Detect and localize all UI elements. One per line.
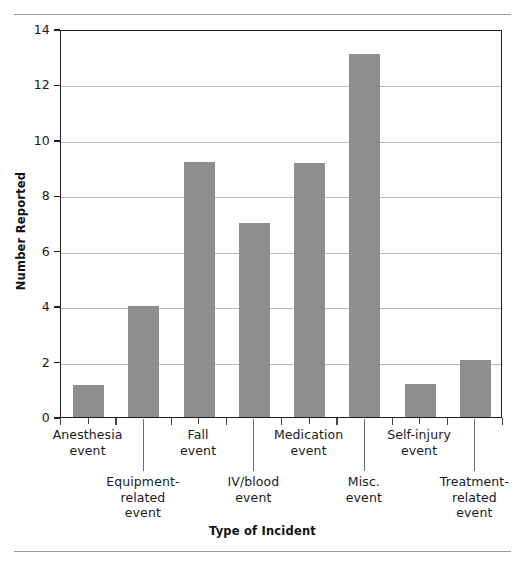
x-axis-label-self-injury-event: Self-injury event bbox=[364, 427, 474, 458]
bar-treatment-related-event bbox=[460, 360, 491, 417]
x-axis-label-iv-blood-event: IV/blood event bbox=[198, 474, 308, 505]
x-tick-boundary-1 bbox=[115, 418, 116, 425]
plot-area bbox=[60, 30, 502, 418]
x-axis-title: Type of Incident bbox=[0, 524, 525, 538]
x-axis-label-anesthesia-event: Anesthesia event bbox=[33, 427, 143, 458]
x-tick-leader-7 bbox=[474, 419, 475, 471]
x-tick-boundary-end bbox=[502, 418, 503, 425]
x-axis-label-equipment-related-event: Equipment- related event bbox=[88, 474, 198, 521]
bar-anesthesia-event bbox=[73, 385, 104, 417]
x-tick-boundary-4 bbox=[281, 418, 282, 425]
y-tick-label-2: 2 bbox=[10, 357, 50, 369]
incident-bar-chart-figure: 02468101214 Number Reported Anesthesia e… bbox=[0, 0, 525, 563]
x-axis-label-misc-event: Misc. event bbox=[309, 474, 419, 505]
bars-layer bbox=[61, 31, 501, 417]
y-tick-label-14: 14 bbox=[10, 24, 50, 36]
x-tick-center-6 bbox=[419, 418, 420, 424]
figure-bottom-rule bbox=[14, 551, 511, 552]
x-tick-center-4 bbox=[309, 418, 310, 424]
y-tick-label-12: 12 bbox=[10, 79, 50, 91]
y-tick-label-4: 4 bbox=[10, 301, 50, 313]
bar-fall-event bbox=[184, 162, 215, 417]
figure-top-rule bbox=[14, 14, 511, 15]
x-tick-center-2 bbox=[198, 418, 199, 424]
x-tick-boundary-5 bbox=[336, 418, 337, 425]
bar-misc-event bbox=[349, 54, 380, 417]
y-axis-title: Number Reported bbox=[14, 166, 28, 296]
bar-iv-blood-event bbox=[239, 223, 270, 417]
bar-equipment-related-event bbox=[128, 306, 159, 417]
x-axis-label-medication-event: Medication event bbox=[254, 427, 364, 458]
x-tick-boundary-7 bbox=[447, 418, 448, 425]
x-axis-label-fall-event: Fall event bbox=[143, 427, 253, 458]
bar-medication-event bbox=[294, 163, 325, 417]
x-tick-center-0 bbox=[88, 418, 89, 424]
x-tick-boundary-0 bbox=[60, 418, 61, 425]
y-tick-label-10: 10 bbox=[10, 135, 50, 147]
x-tick-boundary-2 bbox=[171, 418, 172, 425]
y-tick-label-0: 0 bbox=[10, 412, 50, 424]
x-tick-boundary-6 bbox=[392, 418, 393, 425]
x-axis-label-treatment-related-event: Treatment- related event bbox=[419, 474, 525, 521]
bar-self-injury-event bbox=[405, 384, 436, 417]
x-tick-boundary-3 bbox=[226, 418, 227, 425]
